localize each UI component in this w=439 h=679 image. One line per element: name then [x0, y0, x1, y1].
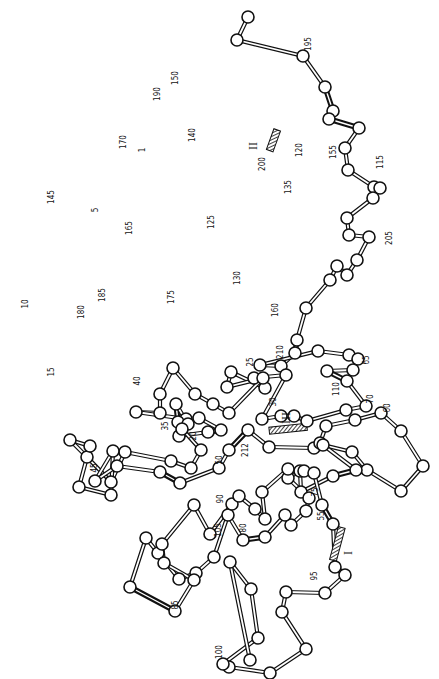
residue-label: 1 [138, 148, 147, 153]
alpha-carbon-node [417, 460, 429, 472]
bond-inner [251, 589, 258, 638]
residue-label: 85 [171, 600, 180, 609]
disulfide-label: II [246, 142, 260, 150]
alpha-carbon-node [189, 388, 201, 400]
alpha-carbon-node [395, 425, 407, 437]
residue-label: 185 [98, 288, 107, 302]
alpha-carbon-node [222, 509, 234, 521]
alpha-carbon-node [289, 347, 301, 359]
residue-label: 25 [246, 357, 255, 366]
alpha-carbon-node [346, 446, 358, 458]
residue-label: 195 [304, 37, 313, 51]
alpha-carbon-node [256, 486, 268, 498]
residue-label: 75 [311, 487, 320, 496]
residue-label: 80 [239, 523, 248, 533]
residue-label: 100 [215, 645, 224, 659]
alpha-carbon-node [224, 556, 236, 568]
alpha-carbon-node [223, 444, 235, 456]
alpha-carbon-node [176, 423, 188, 435]
alpha-carbon-node [242, 11, 254, 23]
alpha-carbon-node [327, 518, 339, 530]
alpha-carbon-node [263, 441, 275, 453]
alpha-carbon-node [279, 509, 291, 521]
residue-label: 135 [284, 180, 293, 194]
backbone-bonds [70, 17, 423, 673]
residue-label: 90 [216, 494, 225, 504]
backbone-svg: 1510152025303540455055606570758085909510… [0, 0, 439, 679]
alpha-carbon-node [350, 464, 362, 476]
residue-label: 165 [125, 221, 134, 235]
alpha-carbon-node [339, 142, 351, 154]
alpha-carbon-node [233, 490, 245, 502]
alpha-carbon-node [395, 485, 407, 497]
residue-label: 212 [241, 443, 250, 457]
alpha-carbon-node [343, 229, 355, 241]
residue-label: 55 [317, 511, 326, 520]
alpha-carbon-node [319, 81, 331, 93]
alpha-carbon-node [340, 404, 352, 416]
alpha-carbon-node [170, 398, 182, 410]
bond-inner [125, 452, 171, 461]
residue-label: 130 [233, 271, 242, 285]
alpha-carbon-node [341, 212, 353, 224]
alpha-carbon-node [188, 574, 200, 586]
residue-label: 125 [207, 215, 216, 229]
alpha-carbon-node [280, 586, 292, 598]
alpha-carbon-node [280, 369, 292, 381]
alpha-carbon-node [231, 34, 243, 46]
alpha-carbon-node [331, 260, 343, 272]
alpha-carbon-node [124, 581, 136, 593]
residue-label: 160 [271, 303, 280, 317]
residue-label: 95 [310, 571, 319, 580]
alpha-carbon-node [185, 462, 197, 474]
residue-label: 150 [171, 71, 180, 85]
alpha-carbon-node [158, 557, 170, 569]
alpha-carbon-node [264, 667, 276, 679]
alpha-carbon-node [327, 470, 339, 482]
alpha-carbon-node [165, 455, 177, 467]
residue-label: 210 [276, 345, 285, 359]
alpha-carbon-node [257, 372, 269, 384]
alpha-carbon-node [73, 481, 85, 493]
bond-inner [130, 538, 146, 587]
alpha-carbon-node [81, 451, 93, 463]
residue-label: 65 [362, 355, 371, 364]
alpha-carbon-node [105, 476, 117, 488]
residue-label: 140 [188, 128, 197, 142]
alpha-carbon-node [329, 561, 341, 573]
residue-label: 70 [366, 394, 375, 404]
alpha-carbon-node [242, 424, 254, 436]
alpha-carbon-node [291, 334, 303, 346]
alpha-carbon-node [107, 445, 119, 457]
alpha-carbon-node [154, 407, 166, 419]
alpha-carbon-node [215, 424, 227, 436]
residue-label: 175 [167, 290, 176, 304]
residue-label: 190 [153, 87, 162, 101]
residue-label: 5 [91, 208, 100, 213]
alpha-carbon-node [167, 362, 179, 374]
residue-label: 10 [21, 299, 30, 309]
residue-label: 15 [47, 367, 56, 376]
residue-label: 115 [376, 155, 385, 169]
alpha-carbon-node [347, 364, 359, 376]
residue-label: 180 [77, 305, 86, 319]
alpha-carbon-node [154, 388, 166, 400]
alpha-carbon-node [221, 381, 233, 393]
alpha-carbon-node [367, 192, 379, 204]
alpha-carbon-node [300, 643, 312, 655]
alpha-carbon-node [254, 359, 266, 371]
alpha-carbon-node [207, 398, 219, 410]
disulfide-bar [266, 129, 280, 152]
residue-label: 170 [119, 135, 128, 149]
alpha-carbon-node [195, 444, 207, 456]
disulfide-label: III [279, 412, 293, 424]
alpha-carbon-node [237, 534, 249, 546]
alpha-carbon-node [140, 532, 152, 544]
alpha-carbon-node [225, 366, 237, 378]
alpha-carbon-node [324, 274, 336, 286]
bond-inner [130, 587, 175, 611]
residue-label: 120 [295, 143, 304, 157]
alpha-carbon-node [202, 426, 214, 438]
alpha-carbon-node [342, 164, 354, 176]
alpha-carbon-node [349, 414, 361, 426]
